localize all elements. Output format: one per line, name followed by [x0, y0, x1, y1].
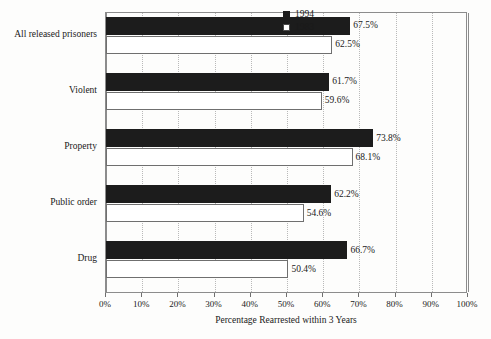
x-tick-mark: [286, 293, 287, 297]
open-square-icon: [283, 24, 290, 31]
legend-entry-1994: 1994: [283, 8, 314, 21]
x-tick-mark: [467, 293, 468, 297]
bar-1983-property: [106, 148, 353, 166]
x-axis-title: Percentage Rearrested within 3 Years: [105, 314, 467, 326]
bar-value-label: 50.4%: [288, 264, 316, 275]
gridline-100pct: [468, 13, 469, 292]
bar-1983-drug: [106, 260, 288, 278]
x-tick-mark: [250, 293, 251, 297]
bar-value-label: 67.5%: [350, 20, 378, 31]
bar-group: 66.7%50.4%: [106, 241, 466, 278]
bar-1994-drug: [106, 241, 347, 259]
bar-1994-property: [106, 129, 373, 147]
bar-value-label: 61.7%: [329, 76, 357, 87]
bar-1983-public-order: [106, 204, 304, 222]
x-tick-label: 20%: [169, 299, 186, 310]
bar-group: 61.7%59.6%: [106, 73, 466, 110]
bar-1983-all-released-prisoners: [106, 36, 332, 54]
x-tick-label: 90%: [423, 299, 440, 310]
x-tick-label: 40%: [242, 299, 259, 310]
bar-value-label: 68.1%: [353, 152, 381, 163]
legend: 1994 1983: [283, 8, 314, 34]
x-tick-mark: [358, 293, 359, 297]
x-tick-mark: [395, 293, 396, 297]
bar-group: 62.2%54.6%: [106, 185, 466, 222]
legend-entry-1983: 1983: [283, 21, 314, 34]
legend-label-1983: 1983: [295, 21, 314, 34]
x-tick-label: 100%: [457, 299, 478, 310]
x-tick-label: 60%: [314, 299, 331, 310]
x-tick-mark: [141, 293, 142, 297]
bar-1983-violent: [106, 92, 322, 110]
bar-value-label: 62.5%: [332, 39, 360, 50]
bar-1994-public-order: [106, 185, 331, 203]
x-tick-label: 80%: [386, 299, 403, 310]
bar-group: 73.8%68.1%: [106, 129, 466, 166]
plot-area: 67.5%62.5%61.7%59.6%73.8%68.1%62.2%54.6%…: [105, 12, 467, 293]
x-tick-label: 30%: [205, 299, 222, 310]
x-tick-mark: [177, 293, 178, 297]
bar-chart: All released prisoners Violent Property …: [0, 0, 491, 339]
x-tick-label: 70%: [350, 299, 367, 310]
bar-value-label: 73.8%: [373, 133, 401, 144]
x-tick-label: 0%: [99, 299, 111, 310]
category-axis-labels: All released prisoners Violent Property …: [0, 12, 101, 293]
x-tick-label: 50%: [278, 299, 295, 310]
x-tick-label: 10%: [133, 299, 150, 310]
category-label-all-released-prisoners: All released prisoners: [14, 29, 97, 40]
bar-value-label: 66.7%: [347, 245, 375, 256]
category-label-public-order: Public order: [50, 197, 97, 208]
x-tick-mark: [322, 293, 323, 297]
category-label-property: Property: [64, 141, 97, 152]
bar-1994-violent: [106, 73, 329, 91]
bar-value-label: 62.2%: [331, 189, 359, 200]
legend-label-1994: 1994: [295, 8, 314, 21]
category-label-violent: Violent: [69, 85, 97, 96]
x-tick-mark: [105, 293, 106, 297]
category-label-drug: Drug: [77, 253, 97, 264]
filled-square-icon: [283, 11, 290, 18]
x-tick-mark: [431, 293, 432, 297]
bar-value-label: 54.6%: [304, 208, 332, 219]
bar-value-label: 59.6%: [322, 95, 350, 106]
x-tick-mark: [214, 293, 215, 297]
